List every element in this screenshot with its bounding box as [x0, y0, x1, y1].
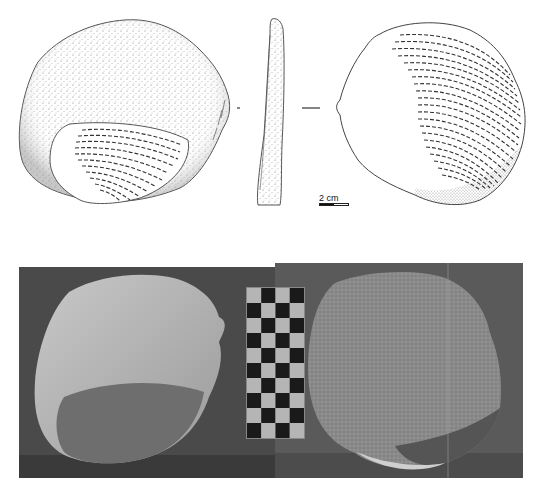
photo-dorsal-face — [19, 267, 276, 478]
drawing-ventral-face — [300, 0, 550, 220]
scale-label: 2 cm — [319, 193, 339, 203]
drawing-dorsal-face — [0, 0, 240, 220]
drawing-profile — [250, 15, 300, 210]
checkerboard-scale — [246, 287, 305, 439]
scale-bar — [319, 203, 349, 206]
photo-ventral-face — [275, 263, 523, 478]
